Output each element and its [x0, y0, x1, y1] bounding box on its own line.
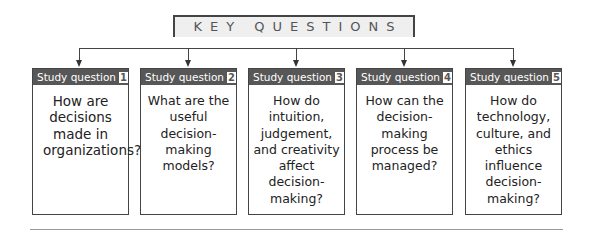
card-label: Study question — [470, 71, 549, 83]
card-header: Study question2 — [141, 69, 236, 85]
arrow-down-icon — [185, 60, 191, 67]
study-question-card-2: Study question2 What are the useful deci… — [140, 68, 237, 215]
study-question-card-4: Study question4 How can the decision-mak… — [356, 68, 453, 215]
card-header: Study question4 — [357, 69, 452, 85]
card-number-badge: 2 — [227, 72, 236, 83]
diagram-title: KEY QUESTIONS — [175, 19, 413, 34]
card-question: How do technology, culture, and ethics i… — [466, 85, 561, 207]
arrow-down-icon — [510, 60, 516, 67]
card-label: Study question — [253, 71, 332, 83]
card-header: Study question5 — [466, 69, 561, 85]
key-questions-title-box: KEY QUESTIONS — [173, 15, 415, 37]
study-question-card-1: Study question1 How are decisions made i… — [32, 68, 129, 215]
study-question-card-5: Study question5 How do technology, cultu… — [465, 68, 562, 215]
card-number-badge: 1 — [119, 72, 128, 83]
arrow-down-icon — [401, 60, 407, 67]
card-question: What are the useful decision-making mode… — [141, 85, 236, 174]
arrow-down-icon — [76, 60, 82, 67]
bottom-divider — [30, 229, 563, 230]
card-label: Study question — [145, 71, 224, 83]
card-number-badge: 3 — [335, 72, 344, 83]
card-label: Study question — [361, 71, 440, 83]
card-question: How can the decision-making process be m… — [357, 85, 452, 174]
arrow-down-icon — [293, 60, 299, 67]
card-header: Study question3 — [249, 69, 344, 85]
study-question-card-3: Study question3 How do intuition, judgem… — [248, 68, 345, 215]
card-number-badge: 5 — [552, 72, 561, 83]
card-question: How are decisions made in organizations? — [33, 85, 128, 158]
card-label: Study question — [37, 71, 116, 83]
card-number-badge: 4 — [443, 72, 452, 83]
card-header: Study question1 — [33, 69, 128, 85]
card-question: How do intuition, judgement, and creativ… — [249, 85, 344, 207]
